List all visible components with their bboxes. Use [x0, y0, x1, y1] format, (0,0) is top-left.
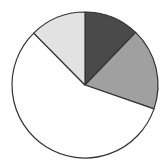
pie-chart-canvas [0, 0, 165, 167]
pie-chart [0, 0, 165, 167]
pie-slices [12, 12, 158, 158]
